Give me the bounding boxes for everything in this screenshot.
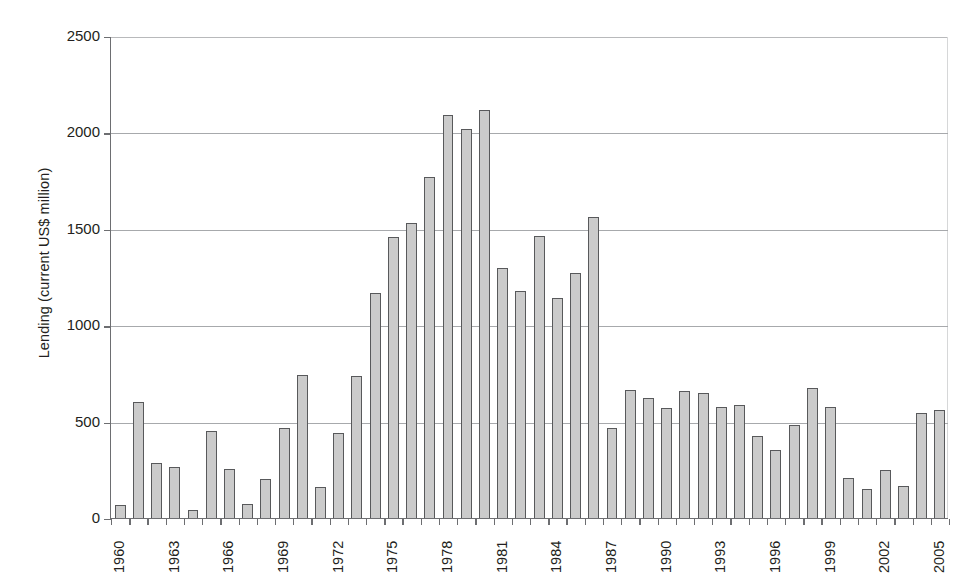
bar (424, 177, 435, 518)
bar (188, 510, 199, 518)
gridline (111, 423, 948, 424)
bar (497, 268, 508, 518)
bar (607, 428, 618, 518)
bar (734, 405, 745, 518)
bar (206, 431, 217, 518)
y-axis-tick (104, 37, 111, 38)
bar (406, 223, 417, 518)
bar (151, 463, 162, 518)
bar (661, 408, 672, 518)
bar (315, 487, 326, 518)
bar (752, 436, 763, 518)
bar (260, 479, 271, 518)
bar (224, 469, 235, 518)
bar (333, 433, 344, 518)
bar (479, 110, 490, 518)
x-axis-tick (949, 519, 950, 525)
x-axis-tick-label: 1984 (548, 513, 564, 573)
bar (588, 217, 599, 518)
bar (242, 504, 253, 518)
x-axis-tick-label: 2005 (931, 513, 947, 573)
bar (807, 388, 818, 518)
bar (552, 298, 563, 518)
bar (880, 470, 891, 518)
y-axis-tick-label: 2500 (40, 27, 100, 44)
bar (370, 293, 381, 518)
bar (297, 375, 308, 518)
bar (133, 402, 144, 518)
bar (169, 467, 180, 518)
bar (515, 291, 526, 518)
y-axis-tick (104, 133, 111, 134)
x-axis-tick-label: 1963 (166, 513, 182, 573)
bar (279, 428, 290, 518)
bar (934, 410, 945, 518)
x-axis-tick-label: 1981 (494, 513, 510, 573)
x-axis-tick-labels: 1960196319661969197219751978198119841987… (110, 519, 948, 587)
y-axis-tick-label: 1500 (40, 220, 100, 237)
y-axis-tick-label: 1000 (40, 316, 100, 333)
x-axis-tick-label: 1990 (658, 513, 674, 573)
plot-top-border (111, 37, 948, 38)
x-axis-tick-label: 1966 (220, 513, 236, 573)
bar (679, 391, 690, 518)
bar (534, 236, 545, 518)
x-axis-tick-label: 1960 (111, 513, 127, 573)
bar (789, 425, 800, 519)
bar (388, 237, 399, 518)
bar (625, 390, 636, 518)
gridline (111, 230, 948, 231)
y-axis-tick (104, 423, 111, 424)
bar (898, 486, 909, 518)
x-axis-tick-label: 1987 (603, 513, 619, 573)
bar (843, 478, 854, 518)
x-axis-tick-label: 1999 (822, 513, 838, 573)
gridline (111, 133, 948, 134)
bar (570, 273, 581, 518)
x-axis-tick-label: 1978 (439, 513, 455, 573)
x-axis-tick-label: 1969 (275, 513, 291, 573)
plot-right-border (947, 37, 948, 518)
plot-area (110, 37, 948, 519)
x-axis-tick-label: 2002 (876, 513, 892, 573)
y-axis-tick-label: 0 (40, 509, 100, 526)
y-axis-tick (104, 326, 111, 327)
bar (461, 129, 472, 518)
bar (916, 413, 927, 518)
bar (643, 398, 654, 519)
bar (698, 393, 709, 518)
y-axis-tick-label: 500 (40, 413, 100, 430)
bar (825, 407, 836, 518)
bar (443, 115, 454, 518)
x-axis-tick-label: 1993 (712, 513, 728, 573)
bar (770, 450, 781, 518)
x-axis-tick-label: 1975 (384, 513, 400, 573)
x-axis-tick-label: 1972 (330, 513, 346, 573)
bar (351, 376, 362, 518)
chart-figure: Lending (current US$ million) 0500100015… (0, 0, 971, 587)
y-axis-tick-labels: 05001000150020002500 (40, 37, 102, 519)
gridline (111, 326, 948, 327)
bar (862, 489, 873, 518)
bar (716, 407, 727, 518)
y-axis-tick (104, 230, 111, 231)
x-axis-tick-label: 1996 (767, 513, 783, 573)
y-axis-tick-label: 2000 (40, 123, 100, 140)
